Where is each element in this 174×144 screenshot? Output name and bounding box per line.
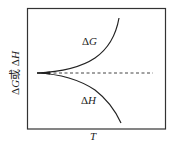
- delta-g-label-symbol: G: [89, 35, 97, 47]
- delta-g-curve: [37, 18, 119, 73]
- figure: ΔG或 ΔH T ΔG ΔH: [0, 0, 174, 144]
- y-label-delta-1: Δ: [9, 88, 21, 95]
- delta-g-label: ΔG: [82, 35, 97, 47]
- delta-h-curve: [37, 73, 121, 123]
- y-label-or: 或: [9, 69, 21, 80]
- y-axis-label: ΔG或 ΔH: [6, 51, 22, 95]
- x-axis-label: T: [90, 130, 96, 142]
- y-label-h: H: [9, 51, 21, 59]
- curve-origin-wedge: [37, 72, 50, 75]
- plot-area: [0, 0, 174, 144]
- plot-frame: [28, 9, 166, 130]
- delta-h-label-symbol: H: [88, 94, 96, 106]
- y-label-delta-2: Δ: [9, 59, 21, 66]
- delta-h-label: ΔH: [81, 94, 96, 106]
- y-label-g: G: [9, 80, 21, 88]
